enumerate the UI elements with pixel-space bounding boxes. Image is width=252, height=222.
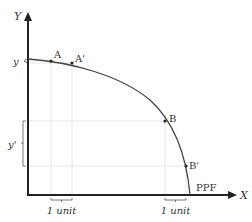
- unit-label-left: 1 unit: [47, 205, 78, 216]
- y-prime-bracket: [23, 121, 26, 166]
- unit-bracket-right: [165, 198, 186, 202]
- point-b: [163, 119, 166, 122]
- label-a-prime: A': [74, 53, 85, 64]
- point-a: [49, 59, 52, 62]
- y-tick-mark: [24, 59, 27, 63]
- y-axis-label: Y: [14, 10, 23, 23]
- point-a-prime: [70, 61, 73, 64]
- point-b-prime: [184, 164, 187, 167]
- x-axis-arrow-icon: [228, 191, 237, 199]
- gridlines: [28, 61, 186, 195]
- label-b-prime: B': [189, 160, 199, 171]
- label-b: B: [169, 113, 176, 124]
- y-axis-arrow-icon: [24, 12, 32, 21]
- unit-bracket-left: [51, 198, 72, 202]
- x-axis-label: X: [239, 189, 249, 202]
- label-a: A: [53, 49, 62, 60]
- ppf-diagram: Y X A A' B B' PPF y y' 1 unit 1 unit: [0, 0, 252, 222]
- unit-label-right: 1 unit: [161, 205, 192, 216]
- ppf-curve: [28, 59, 190, 195]
- y-prime-label: y': [7, 139, 16, 150]
- ppf-label: PPF: [196, 182, 216, 193]
- y-tick-label: y: [12, 56, 19, 67]
